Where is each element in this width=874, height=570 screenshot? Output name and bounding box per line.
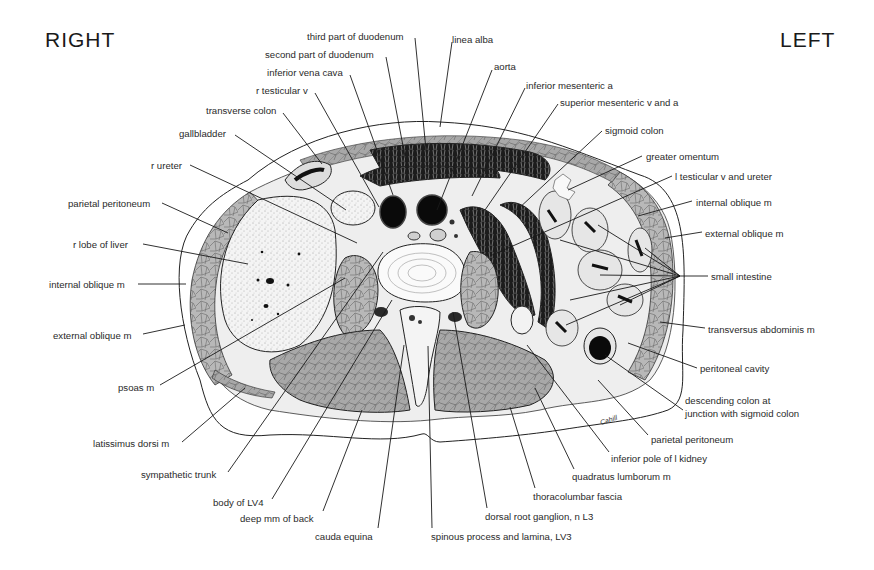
label-parietal-peritoneum-right: parietal peritoneum xyxy=(68,198,150,209)
label-peritoneal-cavity: peritoneal cavity xyxy=(700,363,769,374)
gallbladder-shape xyxy=(331,191,375,225)
label-inferior-pole-of-l-kidney: inferior pole of l kidney xyxy=(611,453,707,464)
leader-line-linea-alba xyxy=(440,42,452,127)
label-third-part-of-duodenum: third part of duodenum xyxy=(307,31,404,42)
label-r-testicular-v: r testicular v xyxy=(256,85,308,96)
label-parietal-peritoneum-left: parietal peritoneum xyxy=(651,434,733,445)
label-thoracolumbar-fascia: thoracolumbar fascia xyxy=(533,491,622,502)
label-l-testicular-v-and-ureter: l testicular v and ureter xyxy=(675,171,772,182)
label-aorta: aorta xyxy=(494,61,516,72)
label-body-of-lv4: body of LV4 xyxy=(213,497,264,508)
label-external-oblique-m-right: external oblique m xyxy=(53,330,131,341)
label-sigmoid-colon: sigmoid colon xyxy=(605,125,664,136)
label-transversus-abdominis-m: transversus abdominis m xyxy=(708,324,815,335)
label-gallbladder: gallbladder xyxy=(179,128,226,139)
label-latissimus-dorsi-m: latissimus dorsi m xyxy=(93,438,169,449)
leader-line-external-oblique-m-right xyxy=(143,325,185,334)
label-greater-omentum: greater omentum xyxy=(646,151,719,162)
label-internal-oblique-m-right: internal oblique m xyxy=(49,279,125,290)
inferior-vena-cava-shape xyxy=(380,196,406,228)
label-internal-oblique-m-left: internal oblique m xyxy=(696,197,772,208)
aorta-shape xyxy=(417,195,447,225)
label-external-oblique-m-left: external oblique m xyxy=(705,228,783,239)
label-sympathetic-trunk: sympathetic trunk xyxy=(141,469,216,480)
label-quadratus-lumborum-m: quadratus lumborum m xyxy=(572,471,671,482)
anatomical-cross-section-figure: RIGHT LEFT xyxy=(0,0,874,570)
label-transverse-colon: transverse colon xyxy=(206,105,276,116)
label-second-part-of-duodenum: second part of duodenum xyxy=(265,49,374,60)
label-r-ureter: r ureter xyxy=(151,160,182,171)
label-spinous-process-and-lamina-lv3: spinous process and lamina, LV3 xyxy=(431,531,572,542)
label-descending-colon-junction: descending colon at junction with sigmoi… xyxy=(685,394,799,420)
label-deep-mm-of-back: deep mm of back xyxy=(240,513,314,524)
label-psoas-m: psoas m xyxy=(118,382,154,393)
label-cauda-equina: cauda equina xyxy=(315,531,373,542)
label-inferior-vena-cava: inferior vena cava xyxy=(267,67,343,78)
left-kidney-inferior-pole xyxy=(511,306,533,334)
label-inferior-mesenteric-a: inferior mesenteric a xyxy=(526,80,613,91)
label-r-lobe-of-liver: r lobe of liver xyxy=(73,239,128,250)
label-superior-mesenteric-v-and-a: superior mesenteric v and a xyxy=(560,97,678,108)
label-small-intestine: small intestine xyxy=(711,271,772,282)
label-dorsal-root-ganglion-n-l3: dorsal root ganglion, n L3 xyxy=(485,511,593,522)
abdominal-cross-section-illustration: Cahill xyxy=(0,0,874,570)
label-linea-alba: linea alba xyxy=(452,34,493,45)
